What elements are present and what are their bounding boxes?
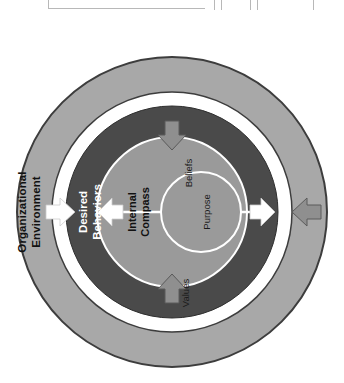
label-internal-compass: Internal Compass (126, 187, 151, 237)
label-purpose: Purpose (201, 194, 212, 229)
label-desired-behaviors-line1: Desired (77, 191, 89, 233)
label-internal-compass-line2: Compass (139, 187, 151, 237)
label-values-text: Values (180, 279, 191, 308)
label-internal-compass-line1: Internal (126, 192, 138, 232)
label-desired-behaviors-line2: Behaviors (91, 184, 103, 240)
label-purpose-text: Purpose (201, 194, 212, 229)
label-beliefs: Beliefs (183, 158, 194, 187)
label-values: Values (180, 279, 191, 308)
label-organizational-environment-line1: Organizational (16, 171, 28, 252)
concentric-diagram-svg: Organizational Environment Desired Behav… (0, 40, 344, 383)
table-remnant (0, 0, 344, 14)
concentric-diagram: Organizational Environment Desired Behav… (0, 40, 344, 383)
label-beliefs-text: Beliefs (183, 158, 194, 187)
label-organizational-environment-line2: Environment (30, 176, 42, 247)
